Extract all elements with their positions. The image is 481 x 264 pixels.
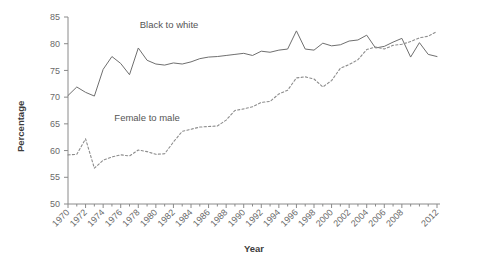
series-annotation-label: Black to white (140, 19, 199, 30)
y-tick-label: 50 (50, 199, 60, 209)
y-tick-label: 80 (50, 39, 60, 49)
y-tick-label: 75 (50, 66, 60, 76)
y-axis-title: Percentage (15, 101, 26, 152)
y-tick-label: 55 (50, 172, 60, 182)
series-annotation-label: Female to male (114, 112, 179, 123)
chart-container: 5055606570758085 19701972197419761978198… (0, 0, 481, 264)
y-tick-label: 85 (50, 12, 60, 22)
line-chart: 5055606570758085 19701972197419761978198… (0, 0, 481, 264)
y-tick-label: 60 (50, 146, 60, 156)
x-axis-title: Year (244, 243, 264, 254)
y-tick-label: 65 (50, 119, 60, 129)
y-tick-label: 70 (50, 92, 60, 102)
